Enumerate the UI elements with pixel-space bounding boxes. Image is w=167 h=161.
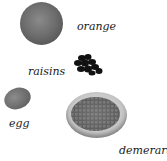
demerara-label: demerara: [119, 145, 167, 156]
egg-label: egg: [9, 118, 30, 129]
sugar-bowl-icon: [66, 92, 127, 138]
demerara-sugar: [71, 97, 120, 131]
orange-icon: [20, 2, 63, 45]
raisins-label: raisins: [28, 66, 65, 77]
egg-icon: [1, 84, 34, 113]
raisins-icon: [72, 53, 104, 77]
orange-label: orange: [77, 21, 116, 32]
